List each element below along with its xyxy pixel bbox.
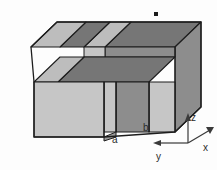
figure-canvas: a b x y z	[0, 0, 217, 170]
dimension-label-a: a	[112, 135, 118, 145]
slab-1-front-face	[34, 82, 104, 137]
layered-prism-diagram	[0, 0, 217, 170]
slab-4-front-face	[149, 82, 175, 132]
axis-y-arrowhead-icon	[153, 140, 161, 146]
slab-3-front-band	[84, 47, 105, 57]
axis-x-arrowhead-icon	[206, 127, 214, 134]
slab-2-front-face	[104, 82, 116, 132]
dimension-label-b: b	[143, 123, 149, 133]
slab-4-front-band	[105, 47, 175, 57]
axis-label-x: x	[203, 143, 208, 153]
axis-label-z: z	[191, 113, 196, 123]
axis-label-y: y	[156, 152, 161, 162]
top-marker-square-icon	[154, 12, 158, 16]
